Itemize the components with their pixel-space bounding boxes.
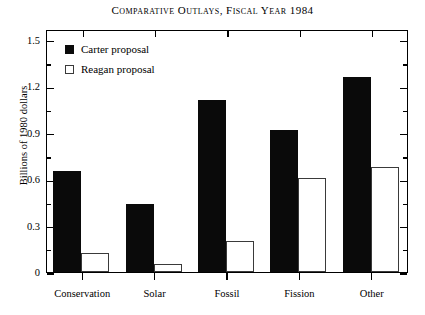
y-axis-tick-major [47, 273, 54, 274]
y-axis-tick-minor [47, 204, 51, 205]
chart-legend: Carter proposalReagan proposal [65, 39, 155, 79]
bar-fossil-reagan [226, 241, 254, 272]
y-axis-tick-major-right [400, 273, 407, 274]
bar-other-reagan [371, 167, 399, 272]
bar-solar-carter [126, 204, 154, 272]
x-axis-tick [226, 273, 227, 280]
y-axis-tick-minor [47, 111, 51, 112]
bar-other-carter [343, 77, 371, 272]
bar-conservation-carter [53, 171, 81, 272]
y-axis-tick-major-right [400, 227, 407, 228]
plot-area: Carter proposalReagan proposal [46, 30, 408, 273]
y-axis-tick-major [47, 134, 54, 135]
y-axis-tick-minor [47, 157, 51, 158]
legend-item-reagan[interactable]: Reagan proposal [65, 59, 155, 79]
chart-figure: Comparative Outlays, Fiscal Year 1984 Bi… [0, 0, 425, 315]
y-axis-tick-label: 1.5 [4, 36, 40, 47]
x-axis-tick [299, 273, 300, 280]
bar-fossil-carter [198, 100, 226, 272]
y-axis-tick-minor [47, 64, 51, 65]
bar-fission-reagan [298, 178, 326, 272]
y-axis-tick-label: 0.9 [4, 129, 40, 140]
filled-square-icon [65, 45, 74, 54]
bar-solar-reagan [154, 264, 182, 272]
y-axis-tick-label: 1.2 [4, 82, 40, 93]
bar-conservation-reagan [81, 253, 109, 272]
top-axis-tick [372, 31, 373, 37]
x-axis-tick [82, 273, 83, 280]
chart-title: Comparative Outlays, Fiscal Year 1984 [0, 4, 425, 16]
legend-item-label: Carter proposal [81, 43, 149, 55]
top-axis-tick [83, 31, 84, 37]
x-axis-tick [154, 273, 155, 280]
hollow-square-icon [65, 65, 74, 74]
y-axis-tick-major [47, 41, 54, 42]
top-axis-tick [155, 31, 156, 37]
y-axis-tick-minor [47, 250, 51, 251]
x-axis-tick [371, 273, 372, 280]
y-axis-tick-minor-right [403, 111, 407, 112]
y-axis-tick-minor-right [403, 204, 407, 205]
y-axis-tick-major-right [400, 88, 407, 89]
x-axis-label-other: Other [317, 288, 425, 299]
y-axis-tick-label: 0.3 [4, 222, 40, 233]
top-axis-tick [227, 31, 228, 37]
bar-fission-carter [270, 130, 298, 272]
y-axis-tick-major [47, 88, 54, 89]
y-axis-tick-minor-right [403, 250, 407, 251]
y-axis-tick-major-right [400, 134, 407, 135]
top-axis-tick [300, 31, 301, 37]
y-axis-tick-major-right [400, 41, 407, 42]
y-axis-tick-label: 0 [4, 268, 40, 279]
y-axis-tick-minor-right [403, 64, 407, 65]
y-axis-tick-minor-right [403, 157, 407, 158]
y-axis-tick-label: 0.6 [4, 175, 40, 186]
legend-item-carter[interactable]: Carter proposal [65, 39, 155, 59]
y-axis-tick-major-right [400, 181, 407, 182]
legend-item-label: Reagan proposal [81, 63, 155, 75]
